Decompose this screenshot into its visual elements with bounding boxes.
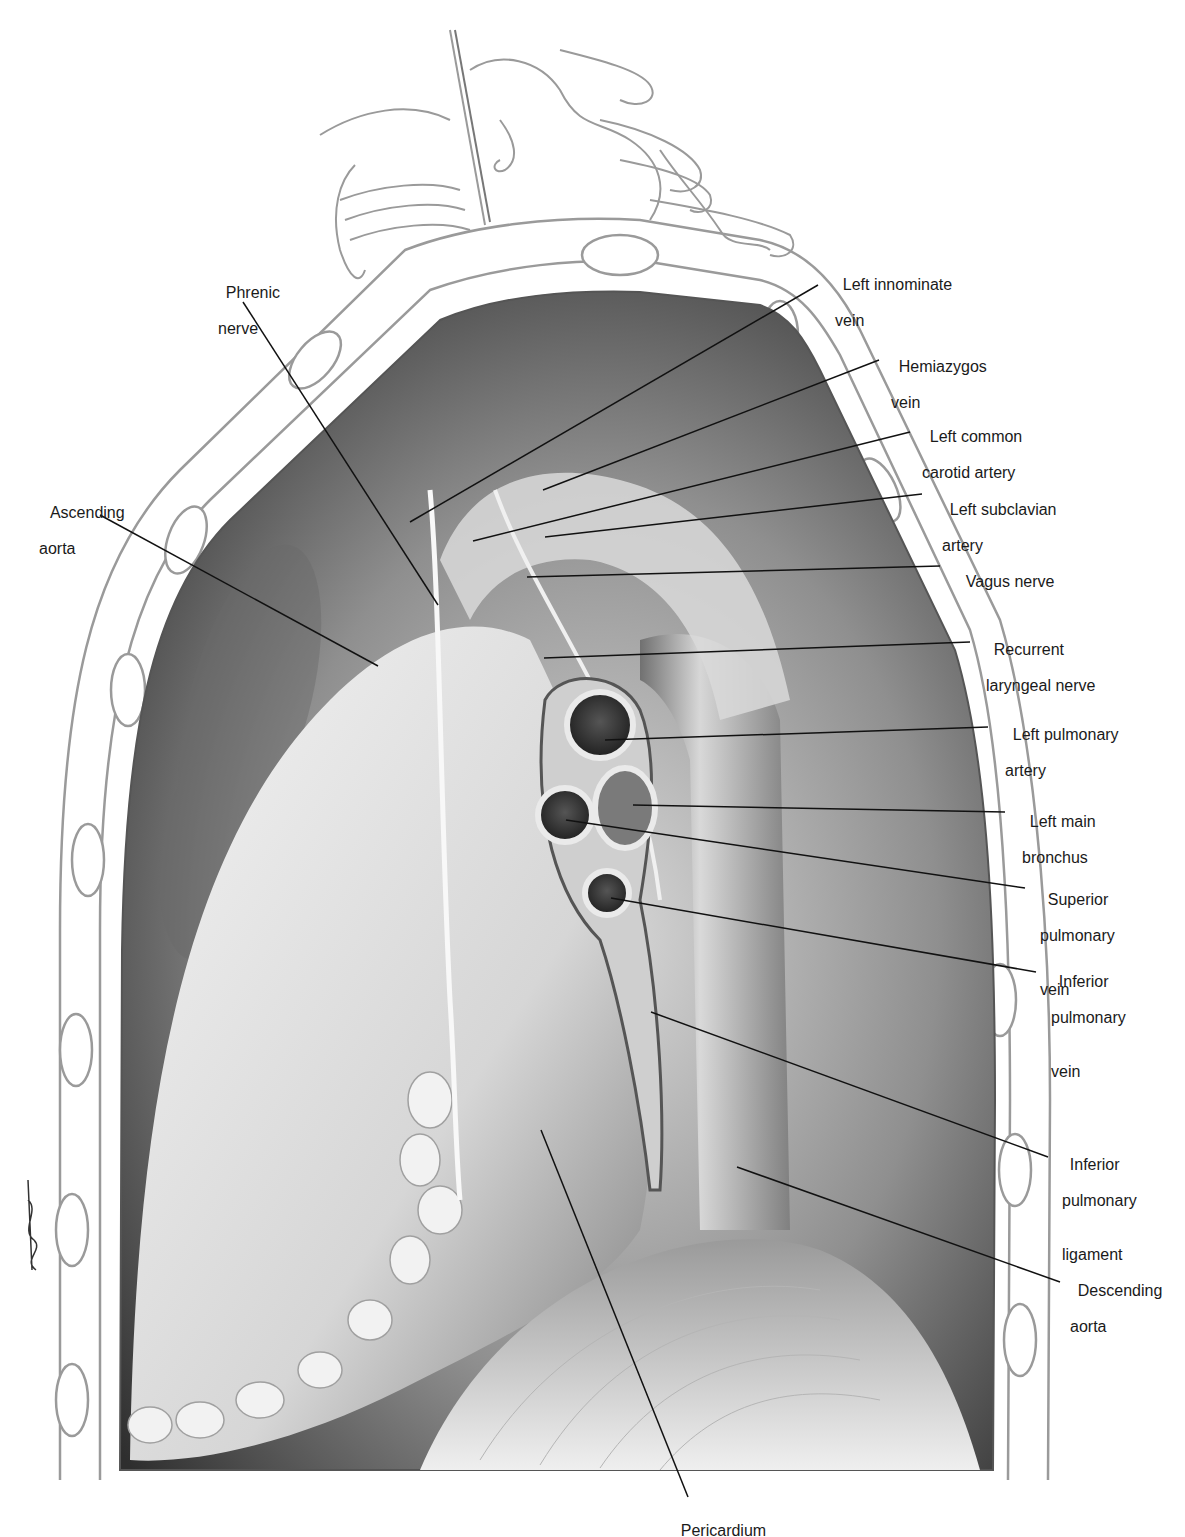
- left-main-bronchus-section: [595, 768, 655, 848]
- label-line-2: bronchus: [1012, 849, 1096, 867]
- label-line-2: artery: [932, 537, 1057, 555]
- label-line-2: artery: [995, 762, 1119, 780]
- label-line-1: Recurrent: [994, 641, 1064, 658]
- label-line-1: Superior: [1048, 891, 1108, 908]
- label-line-2: aorta: [33, 540, 125, 558]
- label-line-2: vein: [825, 312, 952, 330]
- left-pulmonary-artery-section: [567, 692, 633, 758]
- label-line-3: vein: [1041, 1063, 1126, 1081]
- label-ascending-aorta: Ascending aorta: [33, 486, 125, 612]
- label-line-1: Left pulmonary: [1013, 726, 1119, 743]
- artist-signature: [28, 1180, 37, 1270]
- label-line-1: Inferior: [1070, 1156, 1120, 1173]
- cervical-spine-outline: [320, 30, 793, 278]
- label-line-1: Left common: [930, 428, 1022, 445]
- label-line-1: Vagus nerve: [966, 573, 1055, 590]
- label-line-1: Left main: [1030, 813, 1096, 830]
- label-phrenic-nerve: Phrenic nerve: [208, 266, 280, 392]
- label-line-2: pulmonary: [1041, 1009, 1126, 1027]
- label-line-2: carotid artery: [912, 464, 1022, 482]
- label-line-1: Inferior: [1059, 973, 1109, 990]
- label-line-2: pulmonary: [1030, 927, 1115, 945]
- label-line-1: Pericardium: [681, 1522, 766, 1537]
- superior-pulmonary-vein-section: [538, 788, 592, 842]
- label-pericardium: Pericardium: [663, 1504, 766, 1537]
- inferior-pulmonary-vein-section: [585, 871, 629, 915]
- label-line-1: Ascending: [50, 504, 125, 521]
- label-line-2: aorta: [1060, 1318, 1162, 1336]
- label-line-1: Descending: [1078, 1282, 1163, 1299]
- label-line-1: Phrenic: [226, 284, 280, 301]
- label-line-2: nerve: [208, 320, 280, 338]
- label-line-2: laryngeal nerve: [976, 677, 1095, 695]
- label-inferior-pulmonary-vein: Inferior pulmonary vein: [1041, 955, 1126, 1117]
- label-line-2: pulmonary: [1052, 1192, 1137, 1210]
- label-descending-aorta: Descending aorta: [1060, 1264, 1162, 1390]
- label-line-1: Left innominate: [843, 276, 952, 293]
- label-line-3: ligament: [1052, 1246, 1137, 1264]
- label-line-1: Left subclavian: [950, 501, 1057, 518]
- label-line-1: Hemiazygos: [899, 358, 987, 375]
